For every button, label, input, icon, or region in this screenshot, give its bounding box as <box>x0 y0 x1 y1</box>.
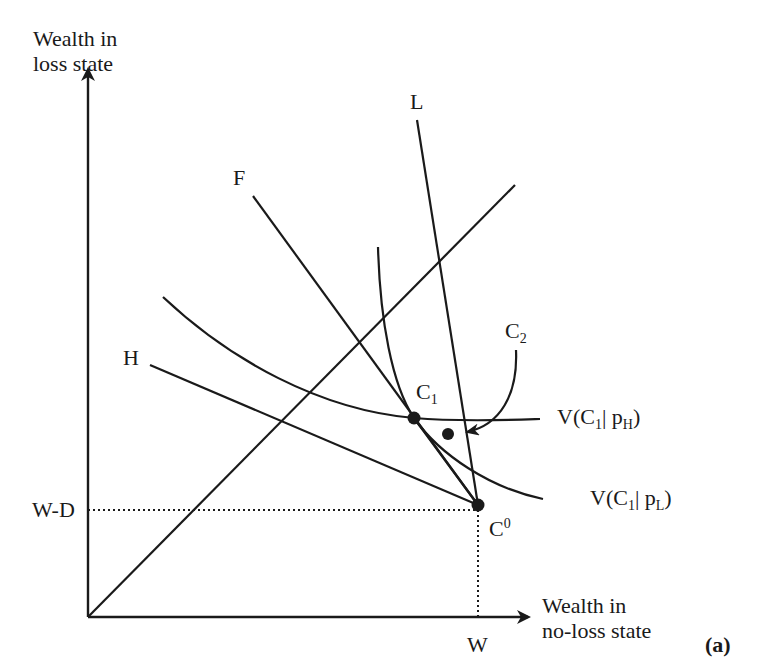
v-ph-mid: | p <box>602 404 623 429</box>
certainty-line <box>88 185 515 617</box>
label-v-pl: V(C1| pL) <box>590 485 672 514</box>
panel-label: (a) <box>705 632 731 657</box>
label-c0-main: C <box>489 516 504 541</box>
x-axis-label-line1: Wealth in <box>542 593 651 618</box>
label-L: L <box>410 89 423 114</box>
label-v-ph: V(C1| pH) <box>557 404 640 433</box>
v-pl-text: V(C <box>590 485 628 510</box>
point-c0 <box>472 499 485 512</box>
v-ph-text: V(C <box>557 404 595 429</box>
y-tick-w-d: W-D <box>32 497 75 522</box>
y-axis-label-line1: Wealth in <box>33 26 117 51</box>
indifference-curve-pL <box>378 247 543 499</box>
label-c1-main: C <box>416 379 431 404</box>
y-axis-label: Wealth in loss state <box>33 26 117 77</box>
indifference-curve-pH <box>163 297 540 420</box>
label-c0: C0 <box>489 516 511 542</box>
label-c2: C2 <box>505 318 527 347</box>
label-c1-sub: 1 <box>431 392 438 407</box>
label-c0-sup: 0 <box>504 516 511 531</box>
v-pl-mid: | p <box>635 485 656 510</box>
label-c1: C1 <box>416 379 438 408</box>
label-c2-main: C <box>505 318 520 343</box>
point-c1 <box>408 412 421 425</box>
v-ph-sub1: 1 <box>595 417 602 432</box>
label-H: H <box>123 345 139 370</box>
label-c2-sub: 2 <box>520 331 527 346</box>
y-axis-label-line2: loss state <box>33 51 117 76</box>
point-c2 <box>442 428 454 440</box>
label-F: F <box>233 165 245 190</box>
x-tick-w: W <box>467 632 488 657</box>
x-axis-label: Wealth in no-loss state <box>542 593 651 644</box>
x-axis-label-line2: no-loss state <box>542 618 651 643</box>
v-ph-sub2: H <box>623 417 633 432</box>
line-L <box>417 120 478 505</box>
diagram-svg <box>0 0 760 671</box>
v-pl-end: ) <box>664 485 671 510</box>
v-pl-sub1: 1 <box>628 498 635 513</box>
insurance-diagram: Wealth in loss state Wealth in no-loss s… <box>0 0 760 671</box>
v-ph-end: ) <box>633 404 640 429</box>
